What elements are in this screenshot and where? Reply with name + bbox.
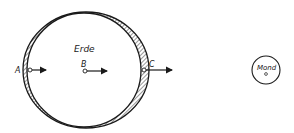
earth-label: Erde [74,44,95,54]
point-c-label: C [149,60,155,69]
diagram-canvas: Erde B A C Mond [0,0,294,133]
tidal-diagram: Erde B A C Mond [0,0,294,133]
point-a-label: A [14,66,20,75]
point-b-label: B [81,60,87,69]
moon-label: Mond [257,64,277,72]
moon: Mond [252,56,280,84]
moon-center-point [265,73,268,76]
